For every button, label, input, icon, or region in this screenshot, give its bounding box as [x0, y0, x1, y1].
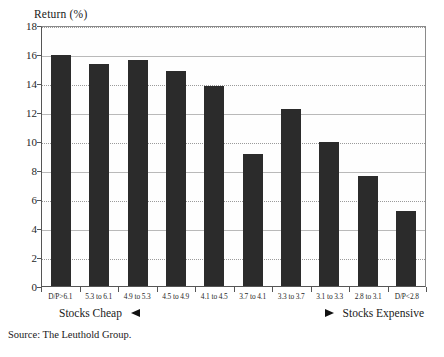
stocks-cheap-label: Stocks Cheap: [59, 307, 122, 319]
bar: [166, 71, 186, 286]
y-axis-tick-label: 16: [7, 49, 37, 61]
bar-slot: [80, 27, 118, 286]
bar: [89, 64, 109, 286]
plot-area: [41, 26, 426, 287]
bar: [204, 86, 224, 286]
bar: [358, 176, 378, 286]
x-axis-tick-label: 3.3 to 3.7: [272, 292, 311, 301]
bar: [396, 211, 416, 286]
y-axis-tick-label: 6: [7, 194, 37, 206]
y-axis-tick-label: 4: [7, 223, 37, 235]
arrow-right-icon: [325, 309, 334, 317]
bar-slot: [195, 27, 233, 286]
x-axis-label-group: D/P>6.15.3 to 6.14.9 to 5.34.5 to 4.94.1…: [41, 292, 426, 301]
y-axis-tick-label: 10: [7, 136, 37, 148]
y-axis-title: Return (%): [34, 8, 87, 20]
chart-figure: Return (%) 024681012141618 D/P>6.15.3 to…: [0, 0, 444, 357]
bar: [319, 142, 339, 286]
y-axis-tick-group: 024681012141618: [0, 26, 37, 287]
x-axis-tick-label: 3.1 to 3.3: [311, 292, 350, 301]
bar: [128, 60, 148, 286]
stocks-expensive-annotation: Stocks Expensive: [325, 307, 424, 319]
x-axis-tick-label: 4.5 to 4.9: [157, 292, 196, 301]
stocks-expensive-label: Stocks Expensive: [343, 307, 424, 319]
bar-slot: [42, 27, 80, 286]
bar: [281, 109, 301, 286]
x-axis-tick-label: D/P<2.8: [388, 292, 427, 301]
x-axis-tick-label: 4.9 to 5.3: [118, 292, 157, 301]
x-axis-tick-label: D/P>6.1: [41, 292, 80, 301]
stocks-cheap-annotation: Stocks Cheap: [59, 307, 140, 319]
arrow-left-icon: [131, 309, 140, 317]
x-axis-tick-label: 5.3 to 6.1: [80, 292, 119, 301]
x-axis-tick-label: 2.8 to 3.1: [349, 292, 388, 301]
bar-slot: [387, 27, 425, 286]
bar: [243, 154, 263, 286]
bar-slot: [157, 27, 195, 286]
source-note: Source: The Leuthold Group.: [8, 329, 131, 340]
y-axis-tick-label: 2: [7, 252, 37, 264]
y-axis-tick-label: 8: [7, 165, 37, 177]
axis-annotations: Stocks Cheap Stocks Expensive: [41, 307, 426, 327]
bar: [51, 55, 71, 286]
y-axis-tick-label: 12: [7, 107, 37, 119]
bar-slot: [233, 27, 271, 286]
x-axis-tick-label: 3.7 to 4.1: [234, 292, 273, 301]
bar-slot: [310, 27, 348, 286]
bar-series: [42, 27, 425, 286]
x-axis-tick-mark: [426, 287, 427, 292]
x-axis-tick-label: 4.1 to 4.5: [195, 292, 234, 301]
y-axis-tick-label: 0: [7, 281, 37, 293]
bar-slot: [348, 27, 386, 286]
y-axis-tick-label: 18: [7, 20, 37, 32]
bar-slot: [272, 27, 310, 286]
bar-slot: [119, 27, 157, 286]
y-axis-tick-label: 14: [7, 78, 37, 90]
